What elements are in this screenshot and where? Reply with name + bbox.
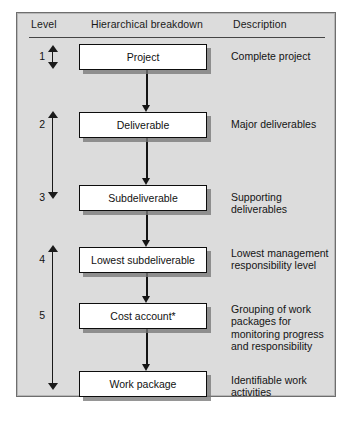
arrowhead-down-icon [142,240,150,247]
column-header-hierarchical-breakdown: Hierarchical breakdown [91,18,203,30]
connector-lowest-to-cost-account [142,273,151,303]
wbs-box-label: Lowest subdeliverable [80,254,206,266]
arrowhead-down-icon [142,364,150,371]
arrow-level-4-to-6 [47,245,58,390]
wbs-box-label: Subdeliverable [80,192,206,204]
wbs-box-deliverable[interactable]: Deliverable [79,112,207,138]
wbs-box-label: Work package [80,378,206,390]
column-header-description: Description [233,18,287,30]
wbs-box-label: Deliverable [80,119,206,131]
connector-project-to-deliverable [142,70,151,112]
wbs-box-label: Cost account* [80,310,206,322]
description-work-package: Identifiable work activities [231,374,331,399]
arrowhead-down-icon [48,383,58,390]
connector-cost-account-to-work-package [142,329,151,371]
arrowhead-down-icon [48,192,58,199]
header-divider-line [29,37,325,38]
connector-shaft [146,138,148,179]
description-cost-account: Grouping of work packages for monitoring… [231,303,331,353]
level-number-4: 4 [27,253,45,265]
description-lowest-subdeliverable: Lowest management responsibility level [231,247,331,272]
arrow-level-2-to-3 [47,111,58,199]
connector-shaft [146,211,148,241]
wbs-box-cost-account[interactable]: Cost account* [79,303,207,329]
arrow-level-1 [47,45,58,69]
description-subdeliverable: Supporting deliverables [231,191,331,216]
arrowhead-down-icon [142,296,150,303]
wbs-box-label: Project [80,51,206,63]
wbs-figure: Level Hierarchical breakdown Description… [0,0,353,424]
arrowhead-down-icon [142,178,150,185]
column-header-row: Level Hierarchical breakdown Description [17,13,335,39]
arrow-shaft [52,250,53,385]
connector-shaft [146,70,148,106]
arrowhead-down-icon [48,62,58,69]
level-number-3: 3 [27,191,45,203]
level-number-5: 5 [27,309,45,321]
connector-shaft [146,329,148,365]
level-number-1: 1 [27,50,45,62]
figure-panel: Level Hierarchical breakdown Description… [16,12,336,397]
arrow-shaft [52,116,53,194]
wbs-box-subdeliverable[interactable]: Subdeliverable [79,185,207,211]
description-project: Complete project [231,50,331,62]
wbs-box-work-package[interactable]: Work package [79,371,207,397]
wbs-box-project[interactable]: Project [79,44,207,70]
description-deliverable: Major deliverables [231,118,331,130]
connector-deliverable-to-subdeliverable [142,138,151,185]
wbs-box-lowest-subdeliverable[interactable]: Lowest subdeliverable [79,247,207,273]
level-number-2: 2 [27,118,45,130]
connector-shaft [146,273,148,297]
arrowhead-down-icon [142,105,150,112]
column-header-level: Level [31,18,57,30]
connector-subdeliverable-to-lowest [142,211,151,247]
